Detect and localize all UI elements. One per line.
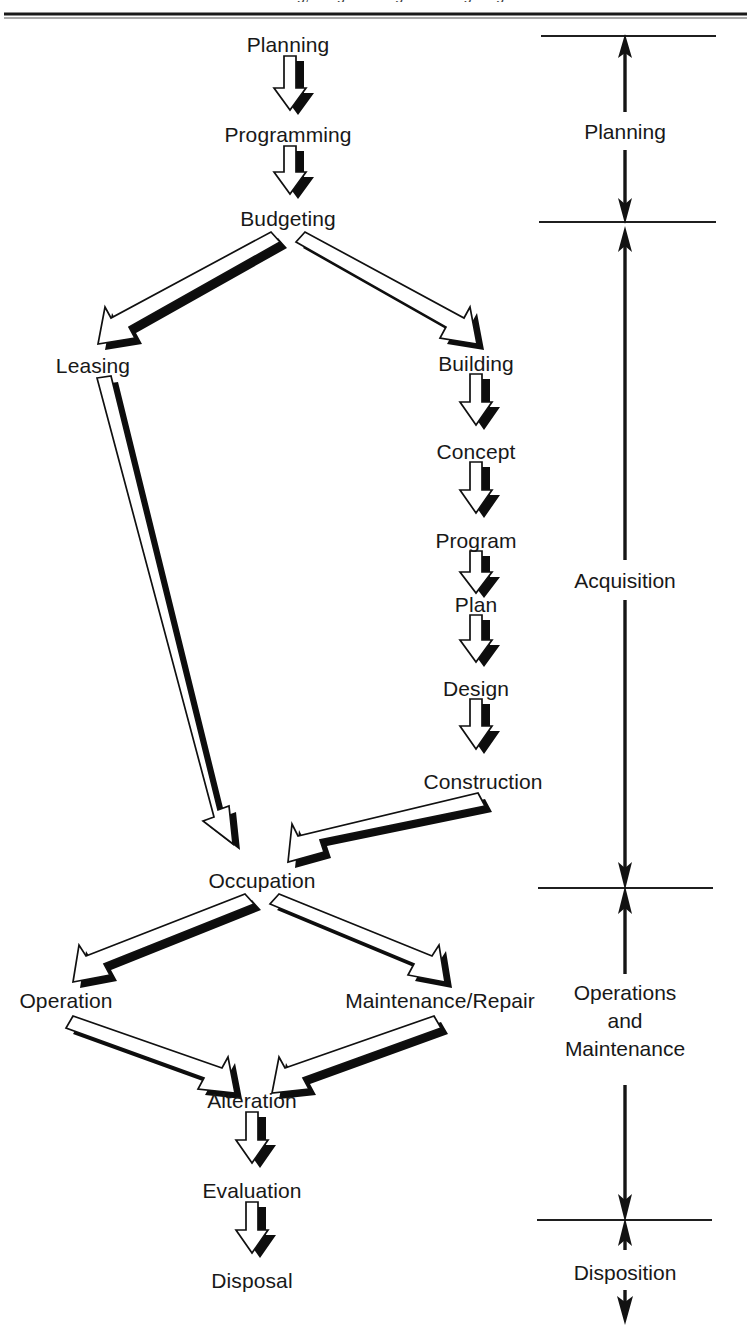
node-label-concept: Concept — [437, 440, 516, 463]
node-label-alteration: Alteration — [207, 1089, 297, 1112]
node-label-program: Program — [435, 529, 516, 552]
arrow-building-to-concept — [460, 374, 500, 430]
phase-label-disposition: Disposition — [574, 1261, 677, 1284]
arrow-construction-to-occupation — [288, 793, 492, 868]
node-label-occupation: Occupation — [208, 869, 315, 892]
node-label-disposal: Disposal — [211, 1269, 292, 1292]
diagram-root: Planning, Programming and Budgeting — [0, 0, 751, 1327]
arrow-plan-to-design — [460, 615, 500, 667]
arrow-leasing-to-occupation — [97, 376, 240, 850]
arrow-operation-to-alteration — [66, 1016, 242, 1099]
phase-bar-operations: Operations and Maintenance — [565, 886, 685, 1222]
arrow-design-to-construction — [460, 699, 500, 754]
node-label-operation: Operation — [19, 989, 112, 1012]
phase-axis: Planning Acquisition Operations and Main… — [537, 34, 716, 1325]
arrow-occupation-to-operation — [73, 894, 261, 988]
phase-label-acquisition: Acquisition — [574, 569, 676, 592]
arrow-programming-to-budgeting — [274, 146, 314, 199]
arrow-maintenance-to-alteration — [272, 1016, 448, 1099]
phase-label-planning: Planning — [584, 120, 666, 143]
node-label-evaluation: Evaluation — [202, 1179, 301, 1202]
node-label-planning: Planning — [247, 33, 330, 56]
arrow-concept-to-program — [460, 462, 500, 518]
node-label-design: Design — [443, 677, 509, 700]
node-label-building: Building — [438, 352, 514, 375]
node-label-leasing: Leasing — [56, 354, 130, 377]
phase-bar-acquisition: Acquisition — [574, 226, 676, 890]
node-label-construction: Construction — [423, 770, 542, 793]
arrow-program-to-plan — [460, 551, 500, 598]
phase-label-operations-line1: Operations — [574, 981, 677, 1004]
node-label-maintenance: Maintenance/Repair — [345, 989, 535, 1012]
node-label-budgeting: Budgeting — [240, 207, 335, 230]
phase-label-operations-line3: Maintenance — [565, 1037, 685, 1060]
phase-bar-planning: Planning — [584, 34, 666, 224]
node-label-programming: Programming — [224, 123, 351, 146]
flowchart-canvas: Planning Programming Budgeting Leasing B… — [0, 0, 751, 1327]
node-label-plan: Plan — [455, 593, 497, 616]
arrow-occupation-to-maintenance — [270, 894, 452, 988]
arrow-budgeting-to-building — [296, 232, 484, 350]
phase-bar-disposition: Disposition — [574, 1218, 677, 1325]
arrow-alteration-to-evaluation — [236, 1112, 276, 1168]
arrow-evaluation-to-disposal — [236, 1202, 276, 1258]
phase-label-operations-line2: and — [607, 1009, 642, 1032]
arrow-budgeting-to-leasing — [98, 232, 287, 350]
arrow-planning-to-programming — [274, 56, 314, 115]
